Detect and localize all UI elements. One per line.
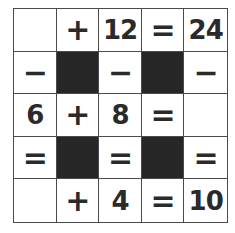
operator-cell-r0c3: = xyxy=(142,9,185,52)
number-cell-r2c2: 8 xyxy=(99,94,142,137)
empty-answer-cell-r2c4[interactable] xyxy=(184,94,227,137)
empty-answer-cell-r0c0[interactable] xyxy=(14,9,57,52)
operator-cell-r0c1: + xyxy=(57,9,100,52)
blocked-cell-r3c3 xyxy=(142,137,185,180)
empty-answer-cell-r4c0[interactable] xyxy=(14,179,57,222)
operator-cell-r4c3: = xyxy=(142,179,185,222)
operator-cell-r1c0: − xyxy=(14,52,57,95)
operator-cell-r3c4: = xyxy=(184,137,227,180)
operator-cell-r1c4: − xyxy=(184,52,227,95)
puzzle-grid: +12=24−−−6+8====+4=10 xyxy=(13,8,228,223)
blocked-cell-r3c1 xyxy=(57,137,100,180)
number-cell-r0c4: 24 xyxy=(184,9,227,52)
operator-cell-r1c2: − xyxy=(99,52,142,95)
number-cell-r0c2: 12 xyxy=(99,9,142,52)
operator-cell-r2c1: + xyxy=(57,94,100,137)
number-cell-r4c2: 4 xyxy=(99,179,142,222)
number-cell-r2c0: 6 xyxy=(14,94,57,137)
number-cell-r4c4: 10 xyxy=(184,179,227,222)
operator-cell-r3c0: = xyxy=(14,137,57,180)
operator-cell-r3c2: = xyxy=(99,137,142,180)
blocked-cell-r1c1 xyxy=(57,52,100,95)
operator-cell-r4c1: + xyxy=(57,179,100,222)
operator-cell-r2c3: = xyxy=(142,94,185,137)
blocked-cell-r1c3 xyxy=(142,52,185,95)
